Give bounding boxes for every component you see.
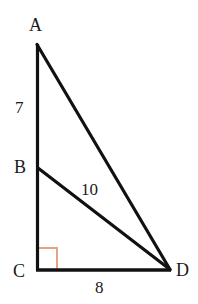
- side-length-cd: 8: [95, 279, 104, 296]
- geometry-figure-svg: [0, 0, 198, 304]
- side-length-ab: 7: [15, 99, 24, 116]
- vertex-label-d: D: [176, 261, 189, 279]
- right-angle-marker-at-c: [38, 248, 58, 269]
- side-length-bd: 10: [81, 181, 98, 198]
- vertex-label-a: A: [29, 16, 42, 34]
- vertex-label-c: C: [13, 262, 25, 280]
- segment-ad: [37, 45, 170, 270]
- geometry-figure-canvas: A B C D 7 10 8: [0, 0, 198, 304]
- vertex-label-b: B: [14, 158, 26, 176]
